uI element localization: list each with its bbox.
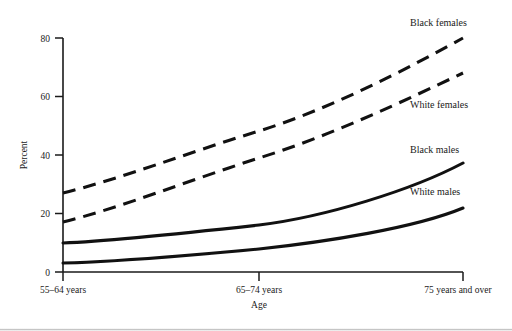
x-axis-title: Age bbox=[251, 300, 267, 310]
series-curve-black-females bbox=[63, 38, 463, 193]
series-label-black-males: Black males bbox=[410, 144, 459, 155]
y-axis-title: Percent bbox=[19, 140, 29, 169]
line-chart-svg: 80 60 40 20 0 Percent 55–64 years 65–74 … bbox=[0, 0, 512, 331]
series-curve-white-females bbox=[63, 73, 463, 222]
y-tick-label-20: 20 bbox=[41, 209, 51, 219]
x-tick-label-3: 75 years and over bbox=[424, 285, 492, 295]
y-tick-label-80: 80 bbox=[41, 34, 51, 44]
series-curve-white-males bbox=[63, 208, 463, 263]
y-tick-label-60: 60 bbox=[41, 92, 51, 102]
chart-figure: 80 60 40 20 0 Percent 55–64 years 65–74 … bbox=[0, 0, 512, 331]
series-label-white-females: White females bbox=[410, 99, 468, 110]
series-label-black-females: Black females bbox=[410, 17, 467, 28]
x-tick-label-1: 55–64 years bbox=[40, 285, 86, 295]
y-tick-label-40: 40 bbox=[41, 151, 51, 161]
y-tick-label-0: 0 bbox=[45, 268, 50, 278]
series-label-white-males: White males bbox=[410, 186, 460, 197]
x-tick-label-2: 65–74 years bbox=[236, 285, 282, 295]
